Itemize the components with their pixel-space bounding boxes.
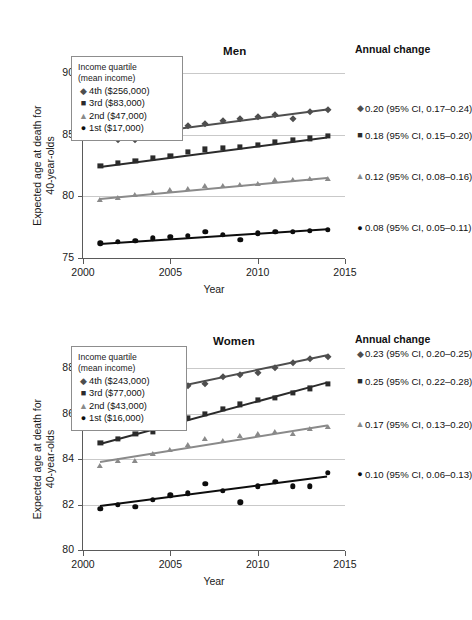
legend-item-label: 4th ($256,000) xyxy=(89,85,149,97)
x-axis-line xyxy=(83,258,345,259)
data-point xyxy=(307,136,312,141)
x-tick xyxy=(258,551,259,556)
legend-item[interactable]: ◆4th ($256,000) xyxy=(78,85,175,97)
data-point xyxy=(307,176,313,181)
y-axis-title: Expected age at death for40-year-olds xyxy=(31,73,57,258)
panel-title-women: Women xyxy=(213,335,255,347)
legend-item-label: 4th ($243,000) xyxy=(89,375,149,387)
x-tick xyxy=(170,259,171,264)
data-point xyxy=(115,239,120,244)
data-point xyxy=(167,187,173,192)
trend-line xyxy=(100,475,327,506)
annual-change-value: 0.17 (95% CI, 0.13–0.20) xyxy=(365,419,472,430)
data-point xyxy=(203,411,208,416)
data-point xyxy=(203,229,208,234)
data-point xyxy=(237,237,242,242)
data-point xyxy=(272,177,278,182)
data-point xyxy=(150,155,155,160)
x-tick xyxy=(258,259,259,264)
legend-item[interactable]: ◆4th ($243,000) xyxy=(78,375,179,387)
plot-area-women: 80828486882000200520102015◆0.23 (95% CI,… xyxy=(83,368,345,550)
square-marker-icon: ■ xyxy=(78,387,89,399)
data-point xyxy=(132,458,138,463)
data-point xyxy=(290,137,295,142)
gridline xyxy=(83,505,345,506)
legend-title: Income quartile(mean income) xyxy=(78,352,179,373)
x-tick xyxy=(83,551,84,556)
data-point xyxy=(290,229,295,234)
x-tick-label: 2000 xyxy=(58,558,108,570)
x-tick xyxy=(83,259,84,264)
data-point xyxy=(220,146,225,151)
legend-item-label: 1st ($16,000) xyxy=(89,412,144,424)
data-point xyxy=(133,158,138,163)
legend-item[interactable]: ●1st ($17,000) xyxy=(78,122,175,134)
legend-item-label: 3rd ($83,000) xyxy=(89,97,145,109)
data-point xyxy=(254,181,260,186)
data-point xyxy=(201,380,209,388)
data-point xyxy=(238,144,243,149)
y-axis-title: Expected age at death for40-year-olds xyxy=(31,368,57,550)
annual-change-value: 0.08 (95% CI, 0.05–0.11) xyxy=(365,222,472,233)
data-point xyxy=(272,229,277,234)
legend-item[interactable]: ■3rd ($77,000) xyxy=(78,387,179,399)
annual-change-row: ●0.10 (95% CI, 0.06–0.13) xyxy=(355,469,472,480)
triangle-marker-icon: ▲ xyxy=(355,419,365,429)
legend-item-label: 2nd ($47,000) xyxy=(89,110,147,122)
data-point xyxy=(237,182,243,187)
data-point xyxy=(290,390,295,395)
plot-area-men: 758085902000200520102015◆0.20 (95% CI, 0… xyxy=(83,73,345,258)
annual-change-row: ■0.25 (95% CI, 0.22–0.28) xyxy=(355,376,472,387)
data-point xyxy=(202,436,208,441)
data-point xyxy=(98,506,103,511)
data-point xyxy=(289,177,295,182)
data-point xyxy=(133,238,138,243)
data-point xyxy=(150,497,155,502)
data-point xyxy=(98,440,103,445)
chart-panel-women: 80828486882000200520102015◆0.23 (95% CI,… xyxy=(0,310,456,620)
annual-change-value: 0.18 (95% CI, 0.15–0.20) xyxy=(365,130,472,141)
annual-change-header: Annual change xyxy=(355,333,430,345)
legend-item[interactable]: ■3rd ($83,000) xyxy=(78,97,175,109)
data-point xyxy=(324,424,330,429)
data-point xyxy=(168,153,173,158)
square-marker-icon: ■ xyxy=(355,130,365,140)
data-point xyxy=(115,436,120,441)
data-point xyxy=(220,183,226,188)
data-point xyxy=(115,160,120,165)
data-point xyxy=(307,386,312,391)
x-axis-title: Year xyxy=(83,575,345,587)
legend-item-label: 2nd ($43,000) xyxy=(89,400,147,412)
data-point xyxy=(185,442,191,447)
data-point xyxy=(255,142,260,147)
data-point xyxy=(150,451,156,456)
data-point xyxy=(290,484,295,489)
data-point xyxy=(238,402,243,407)
data-point xyxy=(307,484,312,489)
legend: Income quartile(mean income)◆4th ($243,0… xyxy=(71,346,187,431)
data-point xyxy=(115,458,121,463)
annual-change-row: ●0.08 (95% CI, 0.05–0.11) xyxy=(355,222,472,233)
diamond-marker-icon: ◆ xyxy=(78,375,89,387)
circle-marker-icon: ● xyxy=(78,412,89,424)
data-point xyxy=(115,502,120,507)
legend: Income quartile(mean income)◆4th ($256,0… xyxy=(71,56,183,141)
annual-change-value: 0.10 (95% CI, 0.06–0.13) xyxy=(365,469,472,480)
x-axis-line xyxy=(83,550,345,551)
x-tick-label: 2000 xyxy=(58,266,108,278)
data-point xyxy=(237,433,243,438)
legend-item[interactable]: ▲2nd ($47,000) xyxy=(78,110,175,122)
data-point xyxy=(97,463,103,468)
data-point xyxy=(254,114,262,122)
data-point xyxy=(220,438,226,443)
chart-panel-men: 758085902000200520102015◆0.20 (95% CI, 0… xyxy=(0,0,456,305)
data-point xyxy=(133,504,138,509)
legend-item[interactable]: ▲2nd ($43,000) xyxy=(78,400,179,412)
data-point xyxy=(185,149,190,154)
data-point xyxy=(271,111,279,119)
legend-item[interactable]: ●1st ($16,000) xyxy=(78,412,179,424)
x-tick xyxy=(170,551,171,556)
annual-change-header: Annual change xyxy=(355,43,430,55)
annual-change-value: 0.25 (95% CI, 0.22–0.28) xyxy=(365,376,472,387)
